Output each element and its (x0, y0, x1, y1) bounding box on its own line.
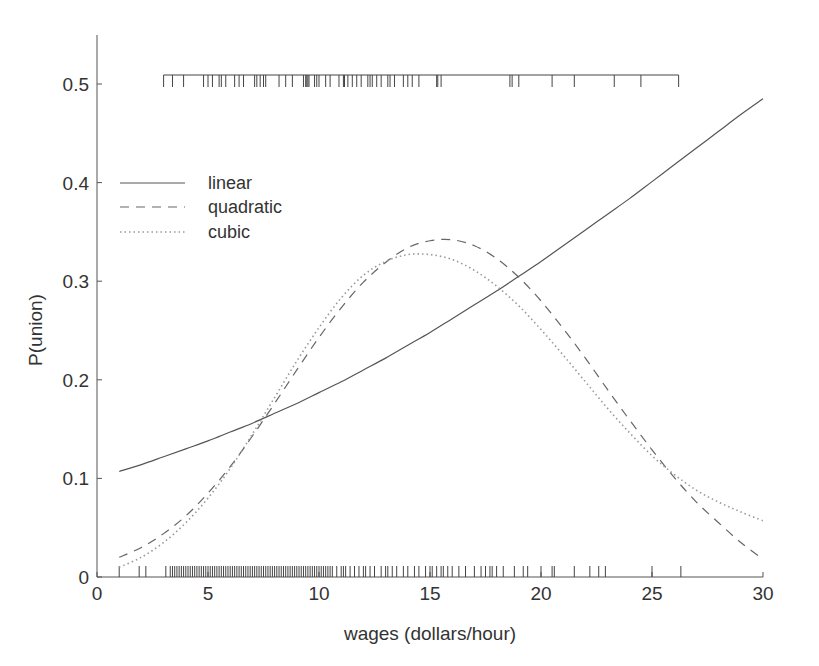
x-tick-label: 10 (308, 583, 329, 604)
y-tick-label: 0.2 (63, 370, 89, 391)
y-tick-label: 0.4 (63, 173, 90, 194)
curve-quadratic (119, 239, 763, 559)
legend: linear quadratic cubic (120, 173, 282, 242)
rug-plots (119, 75, 681, 577)
legend-label-quadratic: quadratic (208, 197, 282, 217)
x-tick-label: 30 (752, 583, 773, 604)
x-tick-label: 15 (419, 583, 440, 604)
legend-label-linear: linear (208, 173, 252, 193)
curve-linear (119, 99, 763, 472)
y-tick-label: 0 (78, 567, 89, 588)
y-axis-title: P(union) (25, 294, 46, 366)
curves (119, 99, 763, 567)
x-tick-label: 0 (92, 583, 103, 604)
curve-cubic (119, 254, 763, 567)
y-tick-label: 0.1 (63, 468, 89, 489)
x-tick-label: 5 (203, 583, 214, 604)
x-axis-title: wages (dollars/hour) (343, 623, 516, 644)
legend-label-cubic: cubic (208, 222, 250, 242)
x-tick-label: 20 (530, 583, 551, 604)
chart-canvas: 05101520253000.10.20.30.40.5 linear quad… (0, 0, 819, 666)
y-tick-label: 0.5 (63, 74, 89, 95)
axes: 05101520253000.10.20.30.40.5 (63, 35, 774, 604)
x-tick-label: 25 (641, 583, 662, 604)
y-tick-label: 0.3 (63, 271, 89, 292)
